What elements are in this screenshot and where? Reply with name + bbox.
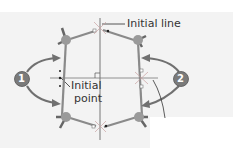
joint-top-right [133,35,146,47]
initial-point-label-line1: Initial [71,80,101,92]
callout-2-number: 2 [177,73,184,85]
initial-line-label: Initial line [127,18,181,30]
joint-bottom-left [56,112,71,128]
diagram-canvas [0,0,233,148]
joint-bottom-right [134,112,148,127]
joint-top-left [58,28,71,45]
right-angle-mark [95,73,100,78]
callout-1-number: 1 [18,73,25,85]
initial-point-label-line2: point [74,93,102,105]
